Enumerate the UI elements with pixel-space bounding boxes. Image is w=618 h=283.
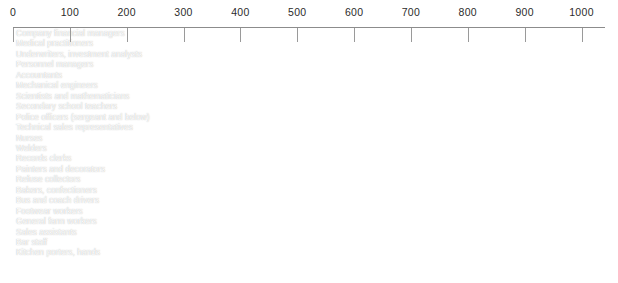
bar-category-label: Records clerks — [16, 154, 72, 163]
bar-category-label: Personnel managers — [16, 60, 93, 69]
x-axis-tick-mark — [582, 28, 583, 42]
bar-category-label: Scientists and mathematicians — [16, 92, 129, 101]
bar-row: Scientists and mathematicians — [13, 92, 314, 101]
bar-row: Kitchen porters, hands — [13, 248, 110, 257]
bar-row: Bus and coach drivers — [13, 196, 178, 205]
bar-category-label: Kitchen porters, hands — [16, 248, 100, 257]
x-axis-tick-mark — [70, 28, 71, 42]
chart-plot-area: Company financial managersMedical practi… — [0, 29, 618, 283]
bar-row: Police officers (sergeant and below) — [13, 113, 292, 122]
x-axis-tick-label: 600 — [345, 6, 363, 18]
x-axis-tick-label: 900 — [515, 6, 533, 18]
bar-row: Painters and decorators — [13, 165, 195, 174]
x-axis-tick-mark — [184, 28, 185, 42]
x-axis-tick-mark — [297, 28, 298, 42]
x-axis-tick-mark — [13, 28, 14, 42]
bar-row: Bakers, confectioners — [13, 186, 184, 195]
x-axis-tick-label: 300 — [174, 6, 192, 18]
chart-x-axis: 01002003004005006007008009001000 — [0, 0, 618, 30]
bar-category-label: Footwear workers — [16, 207, 83, 216]
bar-row: Welders — [13, 144, 223, 153]
x-axis-tick-label: 1000 — [569, 6, 594, 18]
x-axis-tick-mark — [127, 28, 128, 42]
x-axis-tick-label: 800 — [459, 6, 477, 18]
horizontal-bar-chart: 01002003004005006007008009001000 Company… — [0, 0, 618, 283]
bar-category-label: Accountants — [16, 71, 62, 80]
bar-row: Nurses — [13, 134, 226, 143]
bar-row: Personnel managers — [13, 60, 422, 69]
bar-row: Records clerks — [13, 154, 201, 163]
bar-category-label: Bar staff — [16, 238, 47, 247]
x-axis-tick-mark — [411, 28, 412, 42]
bar-category-label: General farm workers — [16, 217, 97, 226]
bar-category-label: Refuse collectors — [16, 175, 81, 184]
bar-category-label: Bus and coach drivers — [16, 196, 99, 205]
bar-row: Refuse collectors — [13, 175, 189, 184]
bar-row: Sales assistants — [13, 228, 158, 237]
bar-category-label: Mechanical engineers — [16, 81, 98, 90]
bar-category-label: Medical practitioners — [16, 39, 93, 48]
bar-category-label: Underwriters, investment analysts — [16, 50, 142, 59]
bar-row: Footwear workers — [13, 207, 172, 216]
bar-row: Mechanical engineers — [13, 81, 323, 90]
x-axis-tick-label: 700 — [402, 6, 420, 18]
x-axis-tick-label: 500 — [288, 6, 306, 18]
x-axis-tick-mark — [468, 28, 469, 42]
x-axis-tick-label: 0 — [10, 6, 16, 18]
x-axis-tick-label: 400 — [231, 6, 249, 18]
bar-row: Secondary school teachers — [13, 102, 300, 111]
x-axis-tick-label: 200 — [117, 6, 135, 18]
bar-category-label: Bakers, confectioners — [16, 186, 97, 195]
x-axis-tick-mark — [525, 28, 526, 42]
x-axis-tick-label: 100 — [61, 6, 79, 18]
bar-row: Company financial managers — [13, 29, 587, 38]
bar-category-label: Welders — [16, 144, 47, 153]
bar-row: Bar staff — [13, 238, 141, 247]
bar-category-label: Nurses — [16, 134, 43, 143]
bar-category-label: Secondary school teachers — [16, 102, 117, 111]
axis-line — [13, 27, 605, 28]
bar-category-label: Sales assistants — [16, 228, 77, 237]
bar-category-label: Police officers (sergeant and below) — [16, 113, 150, 122]
bar-row: General farm workers — [13, 217, 164, 226]
bar-row: Accountants — [13, 71, 371, 80]
x-axis-tick-mark — [354, 28, 355, 42]
bar-category-label: Painters and decorators — [16, 165, 105, 174]
x-axis-tick-mark — [240, 28, 241, 42]
bar-row: Underwriters, investment analysts — [13, 50, 485, 59]
bar-category-label: Technical sales representatives — [16, 123, 133, 132]
bar-row: Technical sales representatives — [13, 123, 272, 132]
